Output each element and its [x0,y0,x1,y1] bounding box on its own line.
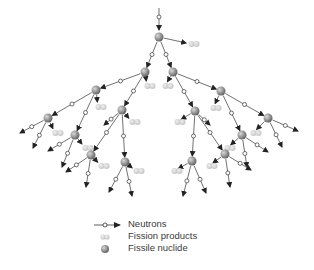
fissile-nuclide [238,131,247,140]
fissile-nuclide [92,86,101,95]
fissile-nuclide [87,151,96,160]
fission-product [58,130,64,136]
fissile-nuclides-group [44,33,273,167]
neutron-arrow [48,138,71,151]
fission-product [104,163,110,169]
legend-item-fissile-nuclide: Fissile nuclide [90,241,197,253]
fissile-nuclide [118,106,127,115]
chain-reaction-diagram [0,0,314,215]
fission-product [101,104,107,110]
fission-product [177,168,183,174]
neutron-arrow [126,167,132,196]
neutron-arrow [243,140,247,167]
fissile-nuclide [264,114,273,123]
legend-item-fission-products: Fission products [90,229,197,241]
fissile-nuclide [121,158,130,167]
fission-products-icon [90,229,126,241]
neutron-arrow [33,122,46,148]
neutron-arrow [122,115,126,157]
legend: Neutrons Fission products Fissile nuclid… [90,217,197,253]
fissile-nuclide [71,131,80,140]
neutron-arrow [246,138,268,152]
fission-product [150,83,156,89]
fission-product [216,105,222,111]
neutron-arrow-icon [90,217,126,229]
fission-product [256,130,262,136]
fissile-nuclide [169,68,178,77]
fissile-nuclide [188,157,197,166]
neutron-arrow [62,140,73,167]
neutron-arrow [226,159,230,187]
fission-product [212,163,218,169]
neutron-arrow [147,42,157,68]
fissile-nuclide [217,87,226,96]
neutron-arrow [199,114,210,125]
fission-products-group [53,41,262,174]
fissile-nuclide [221,150,230,159]
neutron-arrow [229,157,251,170]
neutron-arrow [175,76,192,106]
fissile-nuclide-icon [90,241,126,253]
fission-product [180,119,186,125]
neutron-arrow [94,114,119,151]
neutron-arrow [109,166,123,192]
fissile-nuclide [191,107,200,116]
legend-label: Fissile nuclide [128,242,188,253]
neutron-arrow [178,74,217,89]
legend-item-neutrons: Neutrons [90,217,197,229]
legend-label: Neutrons [128,218,167,229]
neutron-arrow [66,158,87,172]
neutron-arrow [194,166,206,193]
neutron-arrow [270,123,282,147]
neutron-arrow [86,160,90,187]
neutron-arrow [125,76,143,105]
fissile-nuclide [44,114,53,123]
legend-label: Fission products [128,230,197,241]
neutron-arrow [101,74,141,89]
fission-product [230,145,236,151]
neutron-arrow [273,120,298,131]
fissile-nuclide [155,33,164,42]
fission-product [88,145,94,151]
neutron-arrow [183,166,191,196]
fission-product [135,119,141,125]
neutron-arrow [20,120,44,133]
fission-product [139,168,145,174]
fission-product [194,41,200,47]
neutron-arrow [161,42,171,68]
fissile-nuclide [141,68,150,77]
fission-product [168,83,174,89]
neutron-arrow [192,116,196,156]
neutron-arrow [198,115,222,150]
